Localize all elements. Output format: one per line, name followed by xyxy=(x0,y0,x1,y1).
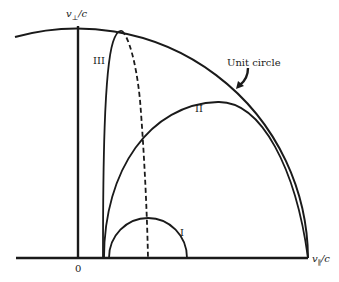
horizontal-axis-label: v∥/c xyxy=(312,253,330,267)
curve-I-label: I xyxy=(180,227,184,238)
unit-circle-arrow xyxy=(240,68,248,85)
curve-II xyxy=(104,102,308,258)
vertical-axis-label: v⊥/c xyxy=(66,8,88,22)
velocity-space-diagram: v⊥/c v∥/c 0 III II I Unit circle xyxy=(0,0,339,282)
origin-label: 0 xyxy=(75,263,81,274)
curve-II-label: II xyxy=(195,103,203,114)
unit-circle-label: Unit circle xyxy=(227,57,281,68)
curve-III-label: III xyxy=(93,55,105,66)
